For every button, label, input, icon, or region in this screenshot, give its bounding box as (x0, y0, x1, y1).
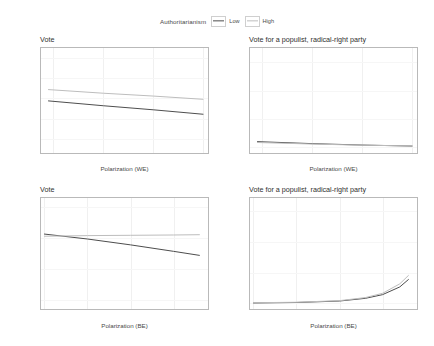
x-tick-mark (103, 153, 104, 154)
plot-area: 0.000.250.500.750%25%50%75% (249, 197, 418, 310)
x-tick-mark (203, 153, 204, 154)
x-tick-mark (412, 153, 413, 154)
x-axis-label: Polarization (WE) (249, 165, 418, 172)
legend: Authoritarianism Low High (0, 12, 434, 30)
series-line-high (253, 276, 408, 303)
legend-swatch-high (245, 16, 260, 27)
x-tick-mark (87, 309, 88, 310)
plot-area: 0.000.250.500.7550%60%70%80% (40, 197, 209, 310)
series-line-low (44, 234, 199, 255)
legend-key-high[interactable]: High (245, 16, 275, 27)
series-line-high (257, 143, 412, 146)
series-layer (250, 198, 417, 309)
panel-title: Vote (40, 185, 54, 194)
legend-key-low[interactable]: Low (211, 16, 239, 27)
x-tick-mark (53, 153, 54, 154)
x-tick-mark (312, 153, 313, 154)
series-layer (250, 48, 417, 153)
plot-area: -0.4-0.20.00.260%65%70%75%80% (40, 47, 209, 154)
panel-bottom-left: Vote 0.000.250.500.7550%60%70%80% Polari… (8, 184, 217, 342)
x-tick-mark (44, 309, 45, 310)
panel-title: Vote for a populist, radical-right party (249, 185, 366, 194)
legend-swatch-low (211, 16, 226, 27)
x-tick-mark (153, 153, 154, 154)
series-line-low (253, 280, 408, 303)
legend-label-high: High (263, 18, 275, 24)
series-layer (41, 198, 208, 309)
legend-title: Authoritarianism (160, 18, 206, 25)
x-tick-mark (253, 309, 254, 310)
series-layer (41, 48, 208, 153)
x-tick-mark (339, 309, 340, 310)
series-line-low (48, 101, 203, 114)
x-tick-mark (262, 153, 263, 154)
series-line-high (48, 90, 203, 100)
legend-line-low (213, 20, 224, 21)
x-axis-label: Polarization (BE) (249, 322, 418, 329)
x-axis-label: Polarization (BE) (40, 322, 209, 329)
x-tick-mark (130, 309, 131, 310)
series-line-high (44, 235, 199, 237)
legend-label-low: Low (229, 18, 239, 24)
panel-bottom-right: Vote for a populist, radical-right party… (217, 184, 426, 342)
x-tick-mark (296, 309, 297, 310)
panel-title: Vote (40, 35, 54, 44)
x-tick-mark (362, 153, 363, 154)
plot-area: -0.4-0.20.00.20%20%40%60% (249, 47, 418, 154)
x-tick-mark (173, 309, 174, 310)
x-axis-label: Polarization (WE) (40, 165, 209, 172)
panel-top-right: Vote for a populist, radical-right party… (217, 34, 426, 184)
legend-line-high (247, 20, 258, 21)
panel-title: Vote for a populist, radical-right party (249, 35, 366, 44)
panel-top-left: Vote -0.4-0.20.00.260%65%70%75%80% Polar… (8, 34, 217, 184)
x-tick-mark (382, 309, 383, 310)
facet-grid: Vote -0.4-0.20.00.260%65%70%75%80% Polar… (0, 30, 434, 346)
